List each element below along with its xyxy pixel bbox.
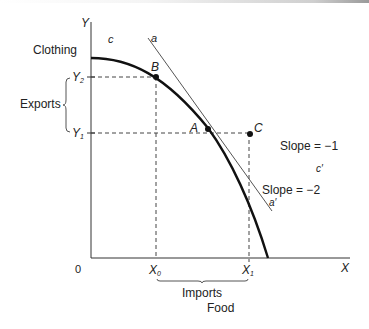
x0-label: X0 — [148, 263, 161, 277]
x-axis-label: X — [340, 261, 350, 275]
exports-label: Exports — [20, 97, 61, 111]
slope-minus-1-label: Slope = −1 — [280, 139, 338, 153]
line-a-prime-label: a′ — [269, 197, 278, 208]
y1-label: Y1 — [72, 126, 84, 140]
point-b-label: B — [151, 60, 159, 74]
imports-brace — [157, 279, 248, 283]
point-a-label: A — [189, 121, 198, 135]
imports-label: Imports — [182, 286, 222, 300]
curve-c-label: c — [108, 33, 114, 45]
ppf-curve — [91, 58, 268, 258]
y-axis-label: Y — [81, 16, 90, 30]
point-c-label: C — [254, 121, 263, 135]
curve-c-prime-label: c′ — [316, 163, 324, 174]
slope-minus-2-label: Slope = −2 — [262, 183, 320, 197]
exports-brace — [63, 78, 70, 132]
point-a — [205, 126, 211, 132]
x-axis-title: Food — [207, 301, 234, 315]
line-a-label: a — [151, 32, 157, 44]
y-axis-title: Clothing — [33, 43, 77, 57]
y2-label: Y2 — [72, 70, 84, 84]
x1-label: X1 — [241, 263, 254, 277]
point-c — [247, 131, 253, 137]
origin-label: 0 — [75, 263, 81, 275]
ppf-diagram: Y Clothing X Food 0 Y2 Y1 X0 X1 B A C c … — [0, 0, 369, 329]
point-b — [153, 74, 159, 80]
